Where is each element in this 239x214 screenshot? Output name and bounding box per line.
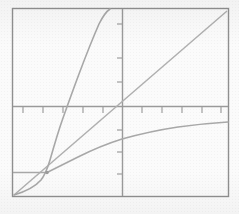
series-identity — [14, 11, 227, 195]
series-logarithmic — [47, 122, 228, 173]
figure-container — [0, 0, 239, 214]
intersection-point — [45, 171, 49, 175]
series-exponential — [14, 9, 110, 195]
function-plot — [0, 0, 239, 214]
